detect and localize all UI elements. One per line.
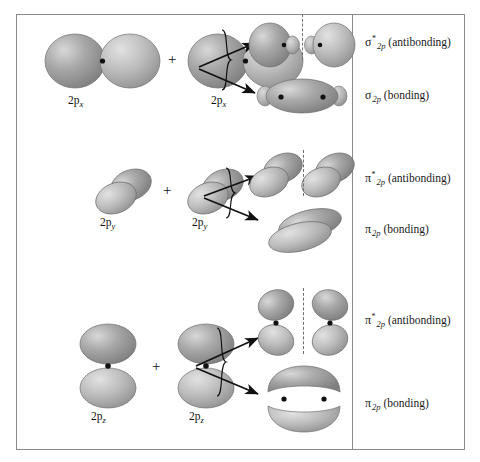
pi-y-antibonding-sub: 2p — [377, 177, 386, 187]
label-sigma-antibonding: σ*2p (antibonding) — [365, 34, 451, 51]
molecular-orbital-pi-y-bonding — [258, 208, 358, 258]
sigma-antibonding-star: * — [372, 34, 376, 43]
molecular-orbital-sigma-bonding — [252, 74, 352, 118]
label-sigma-bonding: σ2p (bonding) — [365, 88, 429, 104]
atomic-orbital-2pz-left — [72, 322, 144, 410]
sigma-antibonding-symbol: σ — [365, 35, 371, 49]
molecular-orbital-sigma-antibonding — [248, 18, 352, 72]
atomic-orbital-2py-left — [88, 168, 162, 216]
pi-z-antibonding-symbol: π — [365, 313, 371, 327]
label-pi-z-bonding: π2p (bonding) — [365, 396, 429, 412]
pi-y-antibonding-suffix: (antibonding) — [388, 172, 451, 184]
pi-y-bonding-suffix: (bonding) — [383, 223, 428, 235]
label-2pz-right-text: 2p — [189, 410, 201, 422]
label-2py-left-text: 2p — [100, 216, 112, 228]
pi-y-antibonding-symbol: π — [365, 171, 371, 185]
sigma-antibonding-suffix: (antibonding) — [388, 36, 451, 48]
pi-y-bonding-sub: 2p — [372, 228, 381, 238]
plus-sign-row2: + — [163, 182, 171, 199]
plus-sign-row3: + — [152, 358, 160, 375]
pi-z-antibonding-star: * — [372, 312, 376, 321]
label-2pz-left: 2pz — [91, 410, 106, 425]
label-2py-left: 2py — [100, 216, 115, 231]
label-pi-y-bonding: π2p (bonding) — [365, 222, 429, 238]
label-2pz-left-axis: z — [103, 415, 106, 425]
pi-z-bonding-suffix: (bonding) — [383, 397, 428, 409]
label-2px-right: 2px — [211, 94, 226, 109]
pi-y-bonding-symbol: π — [365, 222, 371, 236]
label-pi-z-antibonding: π*2p (antibonding) — [365, 312, 451, 329]
sigma-bonding-sub: 2p — [372, 94, 381, 104]
nodal-plane-pi-y-antibonding — [303, 150, 304, 196]
label-2pz-right: 2pz — [189, 410, 204, 425]
label-2px-left-text: 2p — [68, 94, 80, 106]
label-2pz-right-axis: z — [201, 415, 204, 425]
label-2pz-left-text: 2p — [91, 410, 103, 422]
label-2py-left-axis: y — [112, 221, 116, 231]
pi-z-bonding-sub: 2p — [372, 402, 381, 412]
molecular-orbital-pi-y-antibonding — [250, 152, 354, 208]
nodal-plane-sigma-antibonding — [302, 14, 303, 60]
pi-z-antibonding-suffix: (antibonding) — [388, 314, 451, 326]
label-2px-left-axis: x — [80, 99, 84, 109]
label-2px-right-axis: x — [223, 99, 227, 109]
label-2px-left: 2px — [68, 94, 83, 109]
plus-sign-row1: + — [168, 51, 176, 68]
molecular-orbital-pi-z-bonding — [252, 362, 356, 438]
molecular-orbital-pi-z-antibonding — [250, 288, 354, 358]
pi-z-bonding-symbol: π — [365, 396, 371, 410]
label-pi-y-antibonding: π*2p (antibonding) — [365, 170, 451, 187]
atomic-orbital-2px-left — [42, 30, 162, 92]
sigma-bonding-symbol: σ — [365, 88, 371, 102]
sigma-bonding-suffix: (bonding) — [384, 89, 429, 101]
pi-z-antibonding-sub: 2p — [377, 319, 386, 329]
pi-y-antibonding-star: * — [372, 170, 376, 179]
sigma-antibonding-sub: 2p — [377, 41, 386, 51]
nodal-plane-pi-z-antibonding — [303, 288, 304, 354]
